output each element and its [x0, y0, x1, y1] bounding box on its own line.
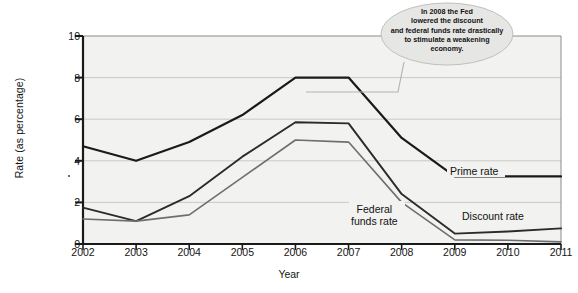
- callout-line-3: and federal funds rate drastically: [383, 26, 511, 35]
- series-label-federal-funds-rate: Federal funds rate: [351, 203, 398, 227]
- x-tick-label-2009: 2009: [425, 246, 485, 258]
- x-tick-label-2008: 2008: [372, 246, 432, 258]
- x-tick-label-2006: 2006: [265, 246, 325, 258]
- x-axis-title: Year: [0, 268, 578, 280]
- callout-line-5: economy.: [383, 44, 511, 53]
- callout-text: In 2008 the Fed lowered the discount and…: [383, 7, 511, 53]
- x-tick-label-2010: 2010: [478, 246, 538, 258]
- callout-line-1: In 2008 the Fed: [383, 7, 511, 16]
- series-label-prime-rate: Prime rate: [450, 165, 498, 177]
- x-tick-label-2002: 2002: [53, 246, 113, 258]
- x-tick-label-2007: 2007: [319, 246, 379, 258]
- y-axis-title: Rate (as percentage): [13, 43, 25, 213]
- y-tick-label-10: 10: [54, 30, 80, 42]
- x-tick-label-2004: 2004: [159, 246, 219, 258]
- interest-rates-line-chart: 0 2 4 6 8 10 200220032004200520062007200…: [0, 0, 578, 293]
- x-tick-label-2005: 2005: [212, 246, 272, 258]
- callout-line-2: lowered the discount: [383, 16, 511, 25]
- x-tick-label-2011: 2011: [531, 246, 578, 258]
- y-tick-label-4: 4: [54, 155, 80, 167]
- callout-line-4: to stimulate a weakening: [383, 35, 511, 44]
- y-tick-label-2: 2: [54, 196, 80, 208]
- y-tick-label-8: 8: [54, 72, 80, 84]
- series-label-discount-rate: Discount rate: [462, 210, 524, 222]
- y-tick-label-6: 6: [54, 113, 80, 125]
- x-tick-label-2003: 2003: [106, 246, 166, 258]
